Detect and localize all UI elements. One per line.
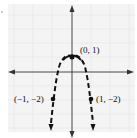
corner-mark bbox=[1, 11, 3, 13]
coordinate-graph: (0, 1) (−1, −2) (1, −2) bbox=[0, 0, 137, 138]
label-left-point: (−1, −2) bbox=[14, 94, 44, 104]
label-right-point: (1, −2) bbox=[96, 94, 121, 104]
label-vertex: (0, 1) bbox=[80, 45, 100, 55]
point-left bbox=[51, 97, 56, 102]
point-right bbox=[89, 97, 94, 102]
graph-background bbox=[8, 4, 135, 132]
y-axis-down-arrow-icon bbox=[70, 131, 75, 138]
point-vertex bbox=[70, 55, 75, 60]
